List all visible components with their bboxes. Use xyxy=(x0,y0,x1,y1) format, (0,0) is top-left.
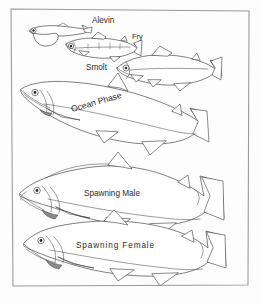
label-fry: Fry xyxy=(132,32,143,41)
alevin-pupil xyxy=(32,29,34,31)
smolt-anal-fin xyxy=(174,83,190,91)
smolt-pupil xyxy=(125,67,128,70)
spawning-male-pupil xyxy=(36,189,39,192)
salmon-life-cycle-figure: Alevin Fry xyxy=(0,0,262,303)
stage-fry: Fry xyxy=(66,32,143,62)
spawning-female-pupil xyxy=(40,239,43,242)
label-smolt: Smolt xyxy=(86,63,108,72)
spawning-female-anal-fin xyxy=(152,273,178,286)
label-alevin: Alevin xyxy=(92,16,115,25)
figure-canvas: Alevin Fry xyxy=(0,0,262,303)
alevin-yolk-sac xyxy=(33,33,58,46)
ocean-phase-pupil xyxy=(34,91,37,94)
fry-pupil xyxy=(70,45,72,47)
alevin-dorsal-fin xyxy=(58,23,68,26)
ocean-phase-anal-fin xyxy=(142,141,166,155)
smolt-adipose-fin xyxy=(192,53,200,60)
fry-dorsal-fin xyxy=(92,32,106,39)
fry-anal-fin xyxy=(110,57,120,62)
smolt-dorsal-fin xyxy=(152,46,172,56)
fry-adipose-fin xyxy=(121,36,127,41)
stage-spawning-female: Spawning Female xyxy=(24,210,226,286)
spawning-female-jaw-shading xyxy=(46,260,62,269)
spawning-male-jaw-shading xyxy=(42,210,58,219)
label-spawning-female: Spawning Female xyxy=(76,241,155,250)
label-spawning-male: Spawning Male xyxy=(84,189,140,198)
